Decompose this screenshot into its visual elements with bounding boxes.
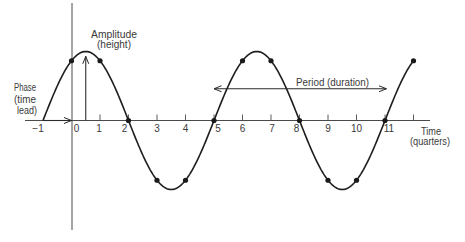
wave-point-marker: [411, 58, 416, 63]
x-tick-label: 2: [122, 123, 128, 134]
x-tick-label: 9: [325, 123, 331, 134]
wave-point-marker: [211, 118, 216, 123]
wave-point-marker: [126, 118, 131, 123]
phase-annotation: Phase (time lead): [14, 82, 37, 116]
wave-point-marker: [154, 178, 159, 183]
x-tick-label: 11: [384, 123, 395, 134]
x-tick-label: 1: [96, 123, 102, 134]
phase-label: Phase: [14, 82, 36, 93]
wave-point-marker: [354, 178, 359, 183]
wave-point-marker: [97, 58, 102, 63]
wave-point-marker: [297, 118, 302, 123]
wave-point-marker: [382, 118, 387, 123]
x-tick-label: 4: [183, 123, 189, 134]
x-tick-label: 3: [154, 123, 160, 134]
wave-point-marker: [183, 178, 188, 183]
phase-sublabel-2: lead): [17, 105, 37, 116]
sine-wave-diagram: −101234567891011 Amplitude (height) Phas…: [0, 0, 465, 242]
phase-sublabel-1: (time: [14, 94, 36, 105]
x-tick-label: 6: [240, 123, 246, 134]
wave-point-marker: [325, 178, 330, 183]
wave-point-marker: [268, 58, 273, 63]
x-axis-title-time: Time: [421, 126, 441, 137]
wave-point-marker: [69, 58, 74, 63]
x-tick-label: 7: [269, 123, 275, 134]
x-axis-title-unit: (quarters): [410, 136, 450, 147]
x-tick-label: 8: [294, 123, 300, 134]
period-label: Period (duration): [296, 77, 369, 88]
wave-point-marker: [240, 58, 245, 63]
x-tick-label: −1: [32, 123, 44, 134]
amplitude-annotation: Amplitude (height): [91, 29, 137, 50]
x-tick-label: 5: [215, 123, 221, 134]
x-tick-label: 0: [74, 123, 80, 134]
amplitude-sublabel: (height): [97, 39, 131, 50]
x-tick-label: 10: [351, 123, 363, 134]
